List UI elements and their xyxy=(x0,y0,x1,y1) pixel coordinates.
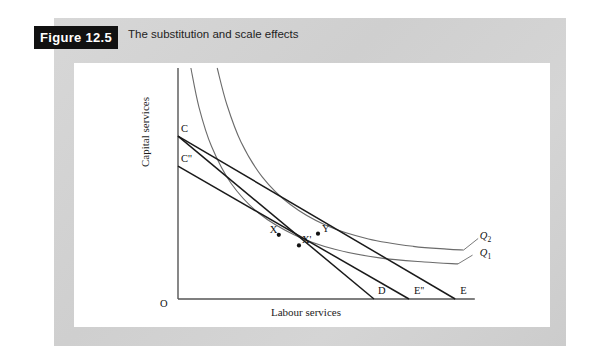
axis-point-label-D: D xyxy=(378,285,386,296)
curve-label-Q2: Q2 xyxy=(480,230,491,244)
origin-label: O xyxy=(160,298,168,309)
y-axis-label: Capital services xyxy=(139,97,151,167)
axis-point-label-Epp: E'' xyxy=(414,285,424,296)
point-label-Xp: X' xyxy=(302,234,311,245)
x-axis-label: Labour services xyxy=(271,306,341,318)
figure-page: Figure 12.5 The substitution and scale e… xyxy=(0,0,600,364)
point-label-Y: Y xyxy=(322,223,330,234)
axis-point-label-Cpp: C'' xyxy=(181,153,192,164)
figure-caption: The substitution and scale effects xyxy=(128,28,298,40)
point-label-X: X xyxy=(270,224,278,235)
axis-point-label-C: C xyxy=(181,123,188,134)
figure-number-badge: Figure 12.5 xyxy=(34,26,118,49)
figure-mat-frame xyxy=(54,18,566,346)
curve-label-Q1: Q1 xyxy=(480,247,491,261)
axis-point-label-E: E xyxy=(460,285,466,296)
